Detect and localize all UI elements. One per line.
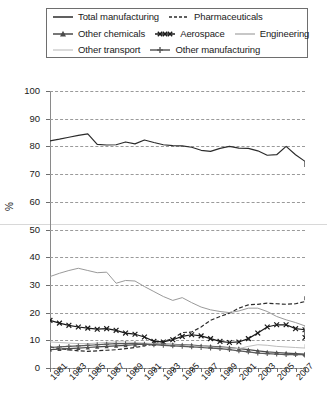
line-triangle-marker-icon	[52, 29, 74, 39]
series-engineering	[50, 268, 305, 331]
line-x-marker-icon	[154, 29, 176, 39]
solid-line-lightgray-icon	[52, 45, 74, 55]
y-axis-tick-label: 70	[14, 168, 40, 179]
y-axis-tick-label: 60	[14, 196, 40, 207]
series-other-manufacturing	[50, 341, 305, 357]
y-axis-tick-label: 90	[14, 113, 40, 124]
legend-entry-other-manufacturing[interactable]: Other manufacturing	[149, 45, 260, 55]
line-plus-marker-icon	[149, 45, 171, 55]
legend-entry-label: Pharmaceuticals	[194, 12, 263, 22]
legend-entry-label: Other chemicals	[78, 29, 145, 39]
legend-entry-label: Other manufacturing	[175, 45, 260, 55]
chart-series-layer	[50, 91, 305, 368]
legend-entry-engineering[interactable]: Engineering	[234, 29, 310, 39]
y-axis-tick-label: 30	[14, 279, 40, 290]
legend-entry-other-chemicals[interactable]: Other chemicals	[52, 29, 145, 39]
legend-row: Other transportOther manufacturing	[47, 42, 307, 59]
dashed-line-black-icon	[168, 12, 190, 22]
legend-entry-aerospace[interactable]: Aerospace	[154, 29, 225, 39]
y-axis-tick-label: 50	[14, 224, 40, 235]
series-total-manufacturing	[50, 134, 305, 167]
legend-entry-pharmaceuticals[interactable]: Pharmaceuticals	[168, 12, 263, 22]
y-axis-tick-label: 20	[14, 307, 40, 318]
series-aerospace	[50, 318, 305, 345]
legend-entry-label: Total manufacturing	[78, 12, 159, 22]
legend-row: Other chemicalsAerospaceEngineering	[47, 26, 307, 43]
legend-entry-total-manufacturing[interactable]: Total manufacturing	[52, 12, 159, 22]
y-axis-tick-label: 100	[14, 85, 40, 96]
legend-entry-label: Aerospace	[180, 29, 225, 39]
data-point-marker	[255, 331, 260, 336]
legend-entry-label: Other transport	[78, 45, 140, 55]
legend-row: Total manufacturingPharmaceuticals	[47, 9, 307, 26]
legend-entry-other-transport[interactable]: Other transport	[52, 45, 140, 55]
solid-line-black-icon	[52, 12, 74, 22]
y-axis-tick-label: 40	[14, 251, 40, 262]
y-axis-tick-label: 10	[14, 334, 40, 345]
solid-line-gray-icon	[234, 29, 256, 39]
legend-entry-label: Engineering	[260, 29, 310, 39]
chart-legend: Total manufacturingPharmaceuticalsOther …	[46, 8, 308, 58]
y-axis-tick-label: 0	[14, 362, 40, 373]
y-axis-tick-label: 80	[14, 140, 40, 151]
